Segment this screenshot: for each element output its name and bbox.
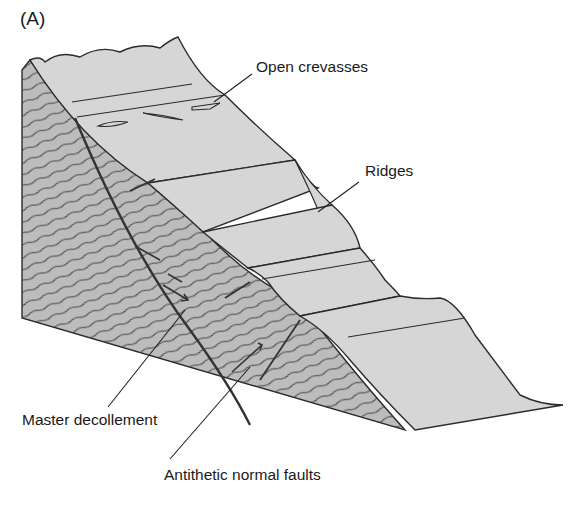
label-open-crevasses: Open crevasses <box>256 58 368 76</box>
leader-open-crevasses <box>214 74 252 102</box>
label-master-decollement: Master decollement <box>22 411 157 429</box>
block-diagram: (A) Open crevasses Ridges Master decolle… <box>0 0 583 514</box>
block-diagram-svg <box>0 0 583 514</box>
label-antithetic-faults: Antithetic normal faults <box>164 466 321 484</box>
panel-label: (A) <box>20 8 45 30</box>
label-ridges: Ridges <box>365 162 413 180</box>
leader-antithetic-faults <box>170 367 250 459</box>
